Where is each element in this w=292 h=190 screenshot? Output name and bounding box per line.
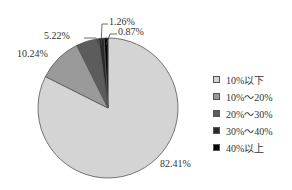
legend-swatch bbox=[213, 93, 220, 100]
legend-label: 20%～30% bbox=[226, 106, 273, 121]
legend-item: 20%～30% bbox=[213, 105, 273, 122]
legend-swatch bbox=[213, 127, 220, 134]
legend-swatch bbox=[213, 76, 220, 83]
label-0-87: 0.87% bbox=[118, 26, 144, 37]
legend-swatch bbox=[213, 110, 220, 117]
legend-swatch bbox=[213, 144, 220, 151]
legend-item: 30%～40% bbox=[213, 122, 273, 139]
legend-label: 40%以上 bbox=[226, 140, 264, 155]
pie-slices bbox=[38, 38, 178, 178]
legend: 10%以下 10%～20% 20%～30% 30%～40% 40%以上 bbox=[213, 71, 273, 156]
legend-label: 10%以下 bbox=[226, 72, 264, 87]
legend-label: 30%～40% bbox=[226, 123, 273, 138]
label-82-41: 82.41% bbox=[160, 158, 191, 169]
legend-label: 10%～20% bbox=[226, 89, 273, 104]
legend-item: 40%以上 bbox=[213, 139, 273, 156]
label-10-24: 10.24% bbox=[17, 48, 48, 59]
legend-item: 10%～20% bbox=[213, 88, 273, 105]
legend-item: 10%以下 bbox=[213, 71, 273, 88]
label-5-22: 5.22% bbox=[44, 30, 70, 41]
